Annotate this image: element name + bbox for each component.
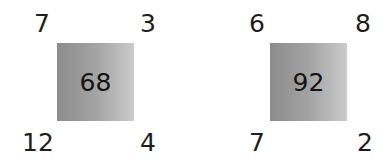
corner-bottom-left: 12 [22,130,54,155]
corner-top-left: 7 [34,11,50,36]
corner-bottom-right: 4 [140,130,156,155]
center-value: 92 [293,68,325,97]
corner-bottom-right: 2 [357,130,373,155]
center-square: 92 [270,43,347,121]
center-square: 68 [57,43,134,121]
corner-top-left: 6 [249,11,265,36]
corner-top-right: 8 [355,11,371,36]
corner-bottom-left: 7 [249,130,265,155]
corner-top-right: 3 [140,11,156,36]
center-value: 68 [80,68,112,97]
